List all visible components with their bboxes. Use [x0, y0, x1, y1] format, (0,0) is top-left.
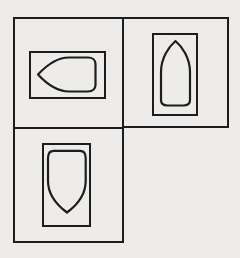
puzzle-figure [0, 0, 240, 258]
cell-bottom-left [14, 128, 123, 242]
figure-canvas [0, 0, 240, 258]
cell-top-left [14, 18, 123, 128]
cell-top-right [123, 18, 228, 127]
cell-bottom-left-outer-box [14, 128, 123, 242]
